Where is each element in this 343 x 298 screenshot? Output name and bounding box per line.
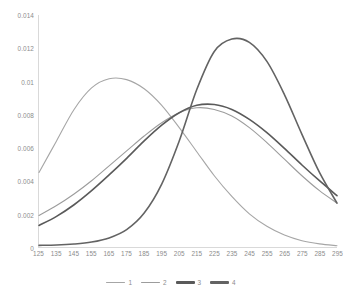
x-tick-label: 165 <box>103 250 114 257</box>
x-tick-label: 265 <box>279 250 290 257</box>
x-tick-label: 225 <box>209 250 220 257</box>
x-tick-label: 185 <box>139 250 150 257</box>
x-tick-label: 205 <box>174 250 185 257</box>
legend-label: 4 <box>232 279 236 286</box>
legend-swatch-icon <box>141 282 160 284</box>
legend-label: 2 <box>163 279 167 286</box>
series-line-3 <box>39 104 337 225</box>
x-tick-label: 215 <box>191 250 202 257</box>
plot-area <box>38 15 337 248</box>
legend-label: 1 <box>128 279 132 286</box>
y-axis: 0.0140.0120.010.0080.0060.0040.0020 <box>0 0 34 263</box>
series-line-4 <box>39 38 337 245</box>
x-axis: 1251351451551651751851952052152252352452… <box>38 250 337 262</box>
legend-item-3[interactable]: 3 <box>176 279 202 286</box>
legend-swatch-icon <box>176 281 195 284</box>
x-tick-label: 135 <box>51 250 62 257</box>
legend-swatch-icon <box>210 281 229 284</box>
x-tick-label: 245 <box>244 250 255 257</box>
legend-swatch-icon <box>106 282 125 284</box>
series-layer <box>39 15 337 247</box>
legend-item-1[interactable]: 1 <box>106 279 132 286</box>
y-tick-label: 0.004 <box>0 178 34 185</box>
x-tick-label: 145 <box>68 250 79 257</box>
legend-item-4[interactable]: 4 <box>210 279 236 286</box>
x-tick-label: 285 <box>315 250 326 257</box>
x-tick-label: 175 <box>121 250 132 257</box>
y-tick-label: 0 <box>0 245 34 252</box>
x-tick-label: 295 <box>332 250 343 257</box>
series-line-2 <box>39 108 337 216</box>
x-tick-label: 275 <box>297 250 308 257</box>
legend-item-2[interactable]: 2 <box>141 279 167 286</box>
x-tick-label: 255 <box>262 250 273 257</box>
y-tick-label: 0.002 <box>0 211 34 218</box>
x-tick-label: 235 <box>227 250 238 257</box>
legend-label: 3 <box>198 279 202 286</box>
chart-legend: 1234 <box>0 279 342 286</box>
y-tick-label: 0.008 <box>0 111 34 118</box>
y-tick-label: 0.01 <box>0 78 34 85</box>
series-line-1 <box>39 78 337 246</box>
x-tick-label: 155 <box>86 250 97 257</box>
x-tick-label: 125 <box>33 250 44 257</box>
y-tick-label: 0.012 <box>0 45 34 52</box>
y-tick-label: 0.014 <box>0 12 34 19</box>
y-tick-label: 0.006 <box>0 145 34 152</box>
x-tick-label: 195 <box>156 250 167 257</box>
